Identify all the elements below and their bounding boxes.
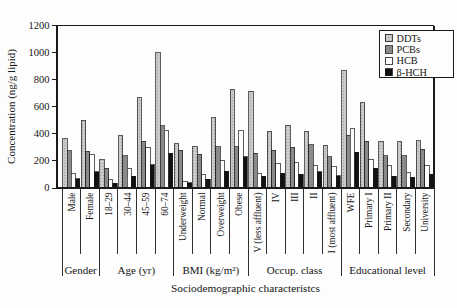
bar — [406, 172, 410, 188]
bar — [379, 142, 383, 188]
bar — [336, 176, 340, 188]
bar — [224, 171, 228, 188]
bar — [146, 147, 150, 188]
bar — [216, 147, 220, 188]
legend-item: PCBs — [385, 44, 420, 55]
group-label: BMI (kg/m²) — [182, 264, 239, 277]
bar — [160, 126, 164, 188]
category-label: Primary I — [364, 193, 374, 228]
category-label: 18–29 — [104, 192, 114, 216]
bar — [230, 89, 234, 188]
legend-box: DDTsPCBsHCBβ-HCH — [380, 30, 454, 78]
bar — [280, 173, 284, 188]
y-tick-label: 400 — [34, 128, 50, 139]
bar — [183, 181, 187, 188]
bar — [243, 157, 247, 188]
bar — [355, 152, 359, 188]
legend-label: PCBs — [397, 44, 420, 55]
bar — [365, 141, 369, 188]
bar — [350, 128, 354, 188]
y-tick-label: 200 — [34, 155, 50, 166]
bar — [317, 172, 321, 188]
group-label: Educational level — [349, 264, 426, 276]
bar — [156, 53, 160, 188]
bar — [360, 103, 364, 188]
group-label: Occup. class — [267, 264, 323, 276]
bar — [63, 139, 67, 188]
bar — [276, 164, 280, 188]
category-label: Overweight — [216, 192, 226, 236]
bar — [267, 131, 271, 188]
bar — [113, 183, 117, 188]
bar — [212, 118, 216, 188]
bar — [392, 176, 396, 188]
category-label: V (less affluent) — [253, 193, 264, 253]
bar — [272, 150, 276, 188]
bar — [94, 172, 98, 188]
legend-swatch — [385, 46, 392, 53]
bar — [342, 71, 346, 188]
bar — [309, 145, 313, 188]
bar — [369, 160, 373, 188]
category-label: IV — [271, 192, 281, 202]
bar — [323, 145, 327, 188]
bar — [141, 141, 145, 188]
bar — [187, 183, 191, 188]
legend-item: β-HCH — [385, 67, 427, 78]
bar — [257, 173, 261, 188]
bar — [179, 150, 183, 188]
bar — [327, 157, 331, 188]
bar — [346, 135, 350, 188]
bar — [234, 147, 238, 188]
group-label: Age (yr) — [118, 264, 156, 277]
bar — [127, 168, 131, 188]
bar — [150, 165, 154, 188]
category-label: II — [309, 193, 319, 199]
category-label: 45–59 — [141, 192, 151, 216]
y-tick-label: 0 — [44, 182, 49, 193]
x-axis-title: Sociodemographic characteristcs — [171, 282, 320, 294]
bar — [193, 147, 197, 188]
bar — [332, 166, 336, 188]
y-tick-label: 1000 — [29, 47, 50, 58]
bar — [299, 174, 303, 188]
y-tick-label: 600 — [34, 101, 50, 112]
bar — [86, 151, 90, 188]
bar — [425, 166, 429, 188]
category-label: Obese — [234, 193, 244, 216]
bar — [76, 179, 80, 188]
category-label: University — [420, 192, 430, 232]
bar — [67, 151, 71, 188]
bar — [109, 179, 113, 188]
category-label: I (most affluent) — [327, 193, 338, 254]
bar — [402, 156, 406, 189]
bar — [81, 120, 85, 188]
bar — [286, 125, 290, 188]
bar — [383, 156, 387, 189]
bar — [249, 91, 253, 188]
category-label: WFE — [346, 192, 356, 212]
legend-swatch — [385, 57, 392, 64]
bar — [131, 176, 135, 188]
bar — [373, 168, 377, 188]
bar — [169, 153, 173, 188]
bar — [202, 174, 206, 188]
bar — [71, 174, 75, 188]
group-label: Gender — [64, 264, 97, 276]
bar — [410, 177, 414, 188]
bar — [90, 154, 94, 188]
bar — [164, 130, 168, 188]
bar — [206, 179, 210, 188]
concentration-bar-chart: 020040060080010001200Concentration (ng/g… — [0, 0, 457, 308]
category-label: Normal — [197, 192, 207, 221]
bar — [420, 149, 424, 188]
bar — [388, 166, 392, 188]
bar — [137, 98, 141, 188]
bar — [429, 174, 433, 188]
legend-label: DDTs — [397, 33, 421, 44]
category-label: Secondary — [402, 192, 412, 232]
legend-item: HCB — [385, 55, 418, 66]
category-label: Male — [67, 193, 77, 212]
bar — [313, 166, 317, 188]
bar-chart-figure: 020040060080010001200Concentration (ng/g… — [0, 0, 457, 308]
